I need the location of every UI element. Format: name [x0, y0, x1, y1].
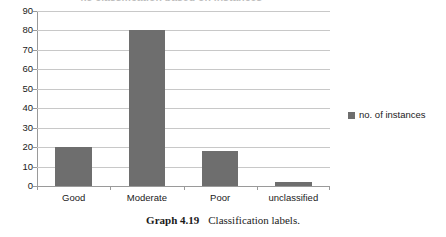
- plot-area: [37, 11, 330, 186]
- y-tick-label-90: 90: [3, 6, 33, 16]
- y-tick-mark-50: [33, 89, 37, 90]
- x-tick-mark-2: [184, 186, 185, 190]
- y-tick-mark-0: [33, 186, 37, 187]
- bar-poor: [202, 151, 239, 186]
- gridline-60: [37, 69, 330, 70]
- y-tick-label-80: 80: [3, 25, 33, 35]
- x-tick-mark-0: [37, 186, 38, 190]
- y-tick-label-50: 50: [3, 84, 33, 94]
- y-tick-label-20: 20: [3, 142, 33, 152]
- y-tick-mark-80: [33, 30, 37, 31]
- y-tick-mark-40: [33, 108, 37, 109]
- bar-moderate: [129, 30, 166, 186]
- gridline-70: [37, 50, 330, 51]
- gridline-90: [37, 11, 330, 12]
- x-tick-mark-1: [110, 186, 111, 190]
- y-tick-label-60: 60: [3, 64, 33, 74]
- y-tick-mark-60: [33, 69, 37, 70]
- x-axis-label-unclassified: unclassified: [257, 192, 330, 204]
- gridline-30: [37, 128, 330, 129]
- y-tick-label-70: 70: [3, 45, 33, 55]
- bar-chart: 9080706050403020100 GoodModeratePooruncl…: [0, 0, 446, 212]
- figure-caption-label: Graph 4.19: [146, 214, 199, 226]
- y-tick-mark-70: [33, 50, 37, 51]
- gridline-40: [37, 108, 330, 109]
- y-tick-mark-90: [33, 11, 37, 12]
- x-axis-labels: GoodModeratePoorunclassified: [37, 192, 330, 206]
- y-axis-labels: 9080706050403020100: [0, 11, 33, 186]
- bar-good: [55, 147, 92, 186]
- y-tick-label-10: 10: [3, 162, 33, 172]
- y-tick-label-40: 40: [3, 103, 33, 113]
- x-axis-label-good: Good: [37, 192, 110, 204]
- y-tick-label-0: 0: [3, 181, 33, 191]
- legend-label-no-of-instances: no. of instances: [359, 110, 426, 120]
- gridline-50: [37, 89, 330, 90]
- x-tick-mark-3: [257, 186, 258, 190]
- y-tick-mark-10: [33, 167, 37, 168]
- y-tick-mark-30: [33, 128, 37, 129]
- x-axis-label-poor: Poor: [184, 192, 257, 204]
- x-axis-ticks: [37, 186, 330, 191]
- y-tick-mark-20: [33, 147, 37, 148]
- x-tick-mark-4: [329, 186, 330, 190]
- figure-caption: Graph 4.19Classification labels.: [0, 214, 446, 226]
- gridline-80: [37, 30, 330, 31]
- legend-swatch-no-of-instances: [348, 112, 355, 119]
- y-tick-label-30: 30: [3, 123, 33, 133]
- x-axis-label-moderate: Moderate: [110, 192, 183, 204]
- figure-caption-text: Classification labels.: [208, 214, 300, 226]
- chart-legend: no. of instances: [348, 110, 426, 120]
